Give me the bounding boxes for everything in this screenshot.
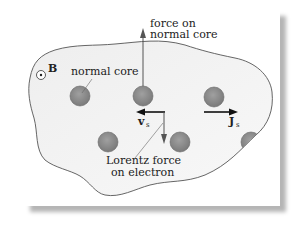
normal-core-label: normal core bbox=[71, 65, 139, 78]
current-subscript: s bbox=[236, 121, 240, 129]
field-label-b: B bbox=[48, 62, 57, 75]
superconductor-diagram: B normal core force on normal core v s L… bbox=[0, 0, 299, 228]
normal-core bbox=[204, 87, 224, 107]
current-label: J bbox=[228, 115, 234, 128]
normal-core-partial bbox=[241, 132, 261, 152]
normal-core bbox=[98, 132, 118, 152]
normal-core bbox=[133, 86, 153, 106]
lorentz-label-line2: on electron bbox=[111, 166, 174, 179]
normal-core bbox=[70, 86, 90, 106]
force-on-core-label-line2: normal core bbox=[150, 28, 218, 41]
velocity-label: v bbox=[137, 115, 145, 128]
velocity-subscript: s bbox=[146, 121, 150, 129]
magnetic-field-out-of-page-icon bbox=[37, 71, 46, 80]
normal-core bbox=[170, 132, 190, 152]
